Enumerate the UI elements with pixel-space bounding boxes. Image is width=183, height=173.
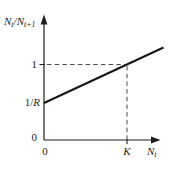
one-over-r-variable: R [33,96,40,108]
y-axis-label: Nt/Nt+1 [4,16,36,29]
x-axis-arrow-icon [151,137,161,144]
y-tick-one-label: 1 [24,59,37,70]
x-label-sub: t [154,150,156,159]
y-axis-arrow-icon [41,15,48,25]
figure-canvas: Nt/Nt+1 1 1/R 0 0 K Nt [0,0,183,173]
x-tick-zero-label: 0 [39,146,51,157]
x-axis-label: Nt [147,146,157,159]
y-tick-one-over-r-label: 1/R [16,97,40,108]
x-tick-k-label: K [120,146,134,157]
one-over-r-numeral: 1/ [25,96,34,108]
y-label-sub2: t+1 [24,20,36,29]
y-tick-zero-label: 0 [24,132,37,143]
growth-line [44,48,164,104]
y-label-sep: /N [14,15,24,27]
